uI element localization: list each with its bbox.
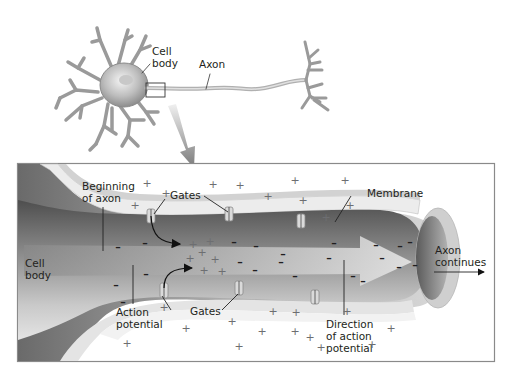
plus-charge-icon: +: [142, 178, 151, 189]
label-line: Axon: [435, 244, 486, 256]
gate-icon: [225, 207, 233, 221]
plus-charge-icon: +: [367, 339, 376, 350]
minus-charge-icon: –: [407, 237, 413, 248]
gate-icon: [297, 214, 305, 228]
label-line: body: [152, 57, 178, 69]
minus-charge-icon: –: [252, 265, 258, 276]
minus-charge-icon: –: [113, 280, 119, 291]
minus-charge-icon: –: [115, 242, 121, 253]
zoom-arrow-icon: [168, 104, 195, 168]
minus-charge-icon: –: [396, 262, 402, 273]
plus-charge-icon: +: [208, 179, 217, 190]
minus-charge-icon: –: [373, 240, 379, 251]
minus-charge-icon: –: [292, 271, 298, 282]
plus-charge-icon: +: [234, 341, 243, 352]
label-axon: Axon: [199, 58, 225, 70]
diagram-graphics: [0, 0, 512, 377]
label-line: of action: [326, 330, 373, 342]
plus-charge-icon: +: [181, 323, 190, 334]
minus-charge-icon: –: [350, 271, 356, 282]
label-line: of axon: [82, 192, 135, 204]
label-action-potential: Action potential: [116, 306, 163, 330]
plus-charge-icon: +: [386, 323, 395, 334]
label-gates-bottom: Gates: [190, 305, 221, 317]
plus-charge-icon: +: [342, 306, 351, 317]
plus-charge-icon: +: [305, 332, 314, 343]
plus-charge-icon: +: [185, 253, 194, 264]
plus-charge-icon: +: [235, 180, 244, 191]
plus-charge-icon: +: [188, 239, 197, 250]
plus-charge-icon: +: [290, 326, 299, 337]
plus-charge-icon: +: [197, 247, 206, 258]
minus-charge-icon: –: [231, 237, 237, 248]
minus-charge-icon: –: [142, 238, 148, 249]
label-cell-body-top: Cell body: [152, 45, 178, 69]
plus-charge-icon: +: [257, 326, 266, 337]
label-beginning-of-axon: Beginning of axon: [82, 180, 135, 204]
label-gates-top: Gates: [170, 189, 201, 201]
plus-charge-icon: +: [290, 175, 299, 186]
label-line: potential: [326, 342, 373, 354]
minus-charge-icon: –: [360, 276, 366, 287]
plus-charge-icon: +: [159, 302, 168, 313]
label-direction-of-action-potential: Direction of action potential: [326, 318, 373, 354]
plus-charge-icon: +: [316, 342, 325, 353]
minus-charge-icon: –: [143, 269, 149, 280]
label-line: Direction: [326, 318, 373, 330]
plus-charge-icon: +: [161, 188, 170, 199]
label-line: Cell: [25, 257, 51, 269]
label-line: Beginning: [82, 180, 135, 192]
gate-icon: [311, 290, 319, 304]
minus-charge-icon: –: [397, 241, 403, 252]
minus-charge-icon: –: [120, 297, 126, 308]
label-membrane: Membrane: [367, 187, 423, 199]
minus-charge-icon: –: [326, 253, 332, 264]
neuron-illustration: [56, 28, 328, 150]
plus-charge-icon: +: [268, 306, 277, 317]
plus-charge-icon: +: [199, 265, 208, 276]
plus-charge-icon: +: [205, 236, 214, 247]
minus-charge-icon: –: [253, 241, 259, 252]
plus-charge-icon: +: [298, 195, 307, 206]
plus-charge-icon: +: [130, 200, 139, 211]
label-line: body: [25, 269, 51, 281]
label-cell-body-detail: Cell body: [25, 257, 51, 281]
plus-charge-icon: +: [345, 200, 354, 211]
diagram-stage: Cell body Axon Beginning of axon Gates M…: [0, 0, 512, 377]
plus-charge-icon: +: [340, 175, 349, 186]
label-line: potential: [116, 318, 163, 330]
plus-charge-icon: +: [210, 254, 219, 265]
minus-charge-icon: –: [331, 238, 337, 249]
minus-charge-icon: –: [379, 253, 385, 264]
label-line: Cell: [152, 45, 178, 57]
minus-charge-icon: –: [278, 257, 284, 268]
plus-charge-icon: +: [227, 316, 236, 327]
plus-charge-icon: +: [321, 212, 330, 223]
label-line: continues: [435, 256, 486, 268]
minus-charge-icon: –: [412, 260, 418, 271]
plus-charge-icon: +: [217, 266, 226, 277]
plus-charge-icon: +: [291, 307, 300, 318]
plus-charge-icon: +: [263, 191, 272, 202]
plus-charge-icon: +: [122, 338, 131, 349]
label-axon-continues: Axon continues: [435, 244, 486, 268]
minus-charge-icon: –: [237, 257, 243, 268]
gate-icon: [235, 281, 243, 295]
